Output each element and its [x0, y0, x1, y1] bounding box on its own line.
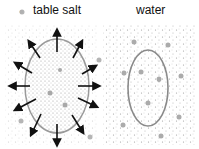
water-label: water	[136, 3, 165, 17]
legend-dot-icon: ●	[19, 7, 24, 16]
table-salt-label: table salt	[33, 3, 81, 17]
diagram-canvas	[0, 0, 199, 149]
water-particles	[103, 25, 196, 145]
